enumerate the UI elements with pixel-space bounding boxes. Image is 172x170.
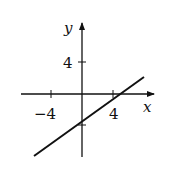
y-tick-label-4: 4 <box>63 54 73 72</box>
coordinate-plane: y x −4 4 4 <box>0 0 172 170</box>
x-tick-label-4: 4 <box>109 105 119 123</box>
y-axis-label: y <box>63 19 73 37</box>
x-axis-label: x <box>143 98 152 116</box>
x-tick-label-neg4: −4 <box>34 105 56 123</box>
